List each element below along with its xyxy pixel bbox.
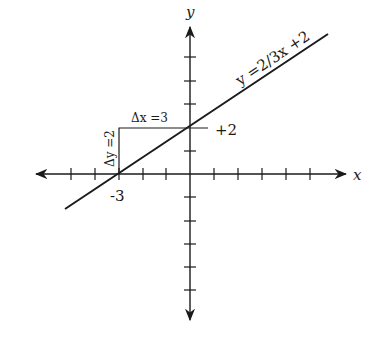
y-axis-label: y	[185, 3, 195, 21]
coordinate-plane: y x y =2/3x +2 Δx =3 Δy =2 +2 -3	[0, 0, 385, 345]
y-intercept-label: +2	[215, 121, 237, 139]
equation-label: y =2/3x +2	[231, 27, 313, 90]
x-axis-label: x	[353, 166, 362, 184]
delta-y-label: Δy =2	[103, 130, 117, 167]
delta-x-label: Δx =3	[131, 111, 168, 125]
x-intercept-label: -3	[110, 187, 125, 205]
function-line	[65, 34, 328, 209]
